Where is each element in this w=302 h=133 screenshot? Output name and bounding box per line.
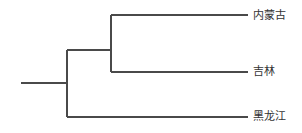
leaf-label-hlj: 黑龙江 (253, 110, 286, 123)
leaf-label-jl: 吉林 (253, 64, 275, 78)
leaf-label-nmg: 内蒙古 (253, 8, 286, 22)
dendrogram: 内蒙古 吉林 黑龙江 (0, 0, 302, 133)
